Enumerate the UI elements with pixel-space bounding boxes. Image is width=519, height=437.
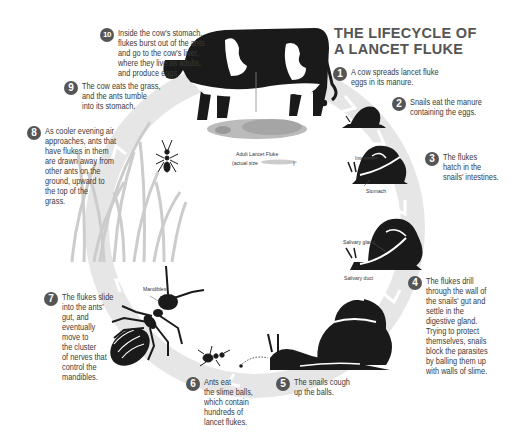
- step-4: 4 The flukes drill through the wall of t…: [408, 276, 498, 376]
- snail-large-icon: [239, 299, 392, 370]
- salivary-gland-label: Salivary gland: [343, 239, 375, 245]
- step-number-badge: 7: [44, 292, 58, 306]
- step-number-badge: 2: [392, 97, 406, 111]
- step-text: The flukes hatch in the snails' intestin…: [443, 152, 499, 182]
- diagram-title: THE LIFECYCLE OF A LANCET FLUKE: [334, 25, 477, 57]
- ant-on-grass-icon: [156, 140, 178, 172]
- step-8: 8 As cooler evening air approaches, ants…: [27, 126, 128, 206]
- step-text: The snails cough up the balls.: [294, 377, 350, 397]
- step-2: 2 Snails eat the manure containing the e…: [392, 97, 494, 117]
- actual-size-fluke: [261, 160, 297, 165]
- step-10: 10 Inside the cow's stomach, flukes burs…: [100, 28, 219, 78]
- step-5: 5 The snails cough up the balls.: [276, 377, 359, 397]
- lifecycle-diagram: THE LIFECYCLE OF A LANCET FLUKE 1 A cow …: [0, 0, 519, 437]
- lancet-fluke-icon: [207, 119, 307, 165]
- title-line-2: A LANCET FLUKE: [334, 41, 477, 57]
- actual-size-close: ): [293, 160, 295, 166]
- step-number-badge: 9: [64, 81, 78, 95]
- step-number-badge: 10: [100, 28, 114, 42]
- step-text: The cow eats the grass, and the ants tum…: [82, 81, 160, 111]
- step-1: 1 A cow spreads lancet fluke eggs in its…: [333, 67, 453, 87]
- step-6: 6 Ants eat the slime balls, which contai…: [186, 377, 261, 427]
- step-number-badge: 3: [425, 152, 439, 166]
- ant-small-icon: [198, 346, 230, 366]
- step-number-badge: 6: [186, 377, 200, 391]
- adult-fluke-label: Adult Lancet Fluke: [236, 151, 278, 157]
- step-3: 3 The flukes hatch in the snails' intest…: [425, 152, 508, 182]
- step-text: As cooler evening air approaches, ants t…: [45, 126, 116, 206]
- step-text: The flukes drill through the wall of the…: [426, 276, 488, 376]
- stomach-label: Stomach: [366, 188, 386, 194]
- step-7: 7 The flukes slide into the ants' gut, a…: [44, 292, 122, 382]
- salivary-duct-label: Salivary duct: [344, 275, 373, 281]
- title-line-1: THE LIFECYCLE OF: [334, 25, 477, 41]
- step-number-badge: 4: [408, 276, 422, 290]
- intestine-label: Intestine: [355, 155, 374, 161]
- step-text: Ants eat the slime balls, which contain …: [204, 377, 253, 427]
- step-number-badge: 5: [276, 377, 290, 391]
- step-number-badge: 1: [333, 67, 347, 81]
- actual-size-label: (actual size: [232, 160, 258, 166]
- mandibles-label: Mandibles: [143, 286, 166, 292]
- step-text: Inside the cow's stomach, flukes burst o…: [118, 28, 205, 78]
- step-number-badge: 8: [27, 126, 41, 140]
- step-9: 9 The cow eats the grass, and the ants t…: [64, 81, 173, 111]
- step-text: A cow spreads lancet fluke eggs in its m…: [351, 67, 439, 87]
- step-text: Snails eat the manure containing the egg…: [410, 97, 482, 117]
- step-text: The flukes slide into the ants' gut, and…: [62, 292, 113, 382]
